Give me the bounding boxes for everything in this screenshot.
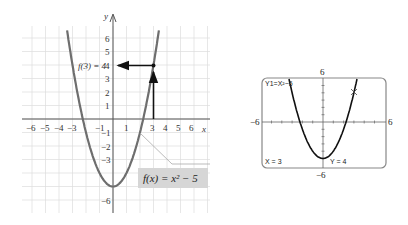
- svg-text:3: 3: [150, 123, 155, 133]
- calc-equation: Y1=X²−5: [265, 80, 293, 87]
- svg-text:−6: −6: [101, 196, 111, 206]
- svg-text:2: 2: [105, 88, 110, 98]
- calc-ymax-label: 6: [320, 67, 325, 77]
- svg-text:1: 1: [124, 123, 129, 133]
- x-axis-label: x: [201, 124, 206, 134]
- calc-xmax-label: 6: [388, 117, 393, 127]
- svg-text:−3: −3: [67, 123, 77, 133]
- figure-canvas: y x −6 −5 −4 −3 −1 1 3 4 5 6 6 5 4 3 2 1…: [0, 0, 408, 225]
- svg-text:1: 1: [105, 101, 110, 111]
- svg-text:−5: −5: [40, 123, 50, 133]
- svg-text:6: 6: [105, 34, 110, 44]
- calc-xmin-label: −6: [250, 117, 260, 127]
- svg-text:−4: −4: [54, 123, 64, 133]
- svg-text:3: 3: [105, 74, 110, 84]
- calc-x-readout: X = 3: [265, 158, 282, 165]
- f3-annotation: f(3) = 4: [78, 61, 107, 71]
- svg-text:5: 5: [176, 123, 181, 133]
- svg-text:−6: −6: [26, 123, 36, 133]
- calc-y-readout: Y = 4: [330, 158, 347, 165]
- function-label: f(x) = x² − 5: [143, 172, 198, 185]
- calculator-screen: Y1=X²−5 X = 3 Y = 4 −6 6 6 −6: [250, 67, 393, 180]
- svg-text:−1: −1: [101, 128, 111, 138]
- calc-ymin-label: −6: [316, 170, 326, 180]
- calculator-frame: [262, 78, 386, 168]
- svg-text:−2: −2: [101, 142, 111, 152]
- y-axis-label: y: [103, 11, 108, 21]
- svg-text:4: 4: [163, 123, 168, 133]
- function-graph: y x −6 −5 −4 −3 −1 1 3 4 5 6 6 5 4 3 2 1…: [22, 11, 210, 213]
- highlight-point: [152, 64, 156, 68]
- svg-text:6: 6: [189, 123, 194, 133]
- svg-text:−3: −3: [101, 155, 111, 165]
- svg-text:5: 5: [105, 47, 110, 57]
